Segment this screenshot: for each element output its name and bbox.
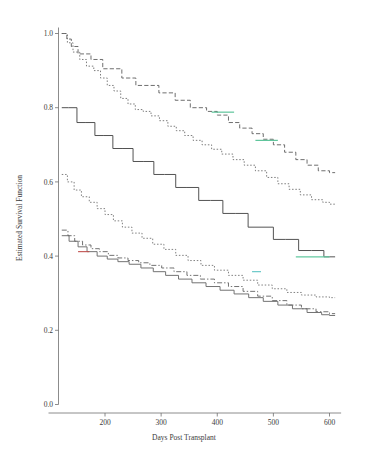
x-tick-label-600: 600: [324, 418, 336, 427]
x-tick-label-200: 200: [99, 418, 111, 427]
y-axis-title: Estimated Survival Function: [15, 175, 24, 261]
y-tick-label-0.6: 0.6: [44, 178, 54, 187]
accent-segments-layer: [78, 112, 329, 272]
x-tick-label-300: 300: [156, 418, 168, 427]
curves-layer: [62, 34, 335, 316]
series-curve-5-lower-dashdot: [62, 230, 335, 313]
axes-layer: [49, 28, 342, 417]
y-tick-label-0.2: 0.2: [44, 326, 54, 335]
series-curve-3-solid-middle: [62, 108, 335, 257]
x-tick-label-400: 400: [212, 418, 224, 427]
survival-function-figure: 1.00.80.60.40.20.0200300400500600Days Po…: [0, 0, 368, 455]
y-tick-label-0.4: 0.4: [44, 252, 54, 261]
series-curve-1-upper-dashed: [62, 34, 335, 173]
plot-canvas: 1.00.80.60.40.20.0200300400500600Days Po…: [0, 0, 368, 455]
x-tick-label-500: 500: [268, 418, 280, 427]
series-curve-6-lowest-solid: [62, 236, 335, 316]
x-axis-title: Days Post Transplant: [152, 433, 217, 442]
y-tick-label-0.8: 0.8: [44, 103, 54, 112]
y-tick-label-1.0: 1.0: [44, 29, 54, 38]
y-tick-label-0.0: 0.0: [44, 400, 54, 409]
